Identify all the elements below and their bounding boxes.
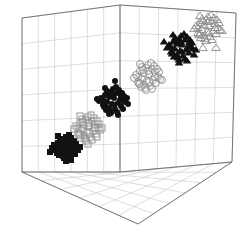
data-point-square-filled [68, 157, 74, 163]
data-point-circle-open [136, 81, 143, 88]
data-point-circle-open [154, 66, 161, 73]
data-point-circle-filled [124, 95, 130, 101]
data-point-circle-filled [120, 106, 126, 112]
data-point-square-open [85, 141, 91, 147]
data-point-circle-filled [101, 104, 107, 110]
data-point-circle-open [152, 74, 159, 81]
data-point-circle-filled [112, 78, 118, 84]
data-point-square-filled [64, 148, 70, 154]
data-point-square-open [94, 118, 100, 124]
data-point-circle-filled [110, 92, 116, 98]
data-point-circle-filled [117, 97, 123, 103]
data-point-square-open [94, 134, 100, 140]
data-point-square-filled [58, 139, 64, 145]
grid-line [22, 172, 138, 224]
data-point-square-open [88, 112, 94, 118]
data-point-circle-open [137, 61, 144, 68]
grid-line [87, 172, 200, 183]
data-point-square-filled [70, 144, 76, 150]
grid-line [119, 164, 214, 216]
data-point-square-filled [77, 144, 83, 150]
data-point-square-open [99, 125, 105, 131]
grid-line [138, 162, 232, 224]
data-point-circle-open [159, 77, 166, 84]
data-point-triangle-filled [169, 31, 178, 38]
data-point-circle-filled [102, 85, 108, 91]
data-point-square-filled [47, 149, 53, 155]
data-point-square-filled [66, 132, 72, 138]
data-point-circle-filled [113, 84, 119, 90]
data-point-square-open [71, 126, 77, 132]
data-point-square-open [80, 119, 86, 125]
data-point-circle-filled [119, 90, 125, 96]
scatter3d-plot [0, 0, 248, 236]
data-point-square-open [86, 130, 92, 136]
data-point-square-filled [72, 151, 78, 157]
data-point-square-filled [55, 133, 61, 139]
data-point-circle-filled [106, 111, 112, 117]
data-point-circle-filled [105, 91, 111, 97]
data-point-circle-open [148, 60, 155, 67]
data-point-triangle-open [199, 44, 208, 51]
data-point-triangle-open [212, 44, 221, 51]
data-point-square-open [77, 113, 83, 119]
data-point-circle-open [146, 79, 153, 86]
grid-line [99, 165, 194, 206]
data-point-circle-open [131, 75, 138, 82]
series-cluster-3 [94, 78, 131, 118]
data-point-circle-filled [115, 112, 121, 118]
data-point-circle-filled [111, 102, 117, 108]
data-point-circle-open [143, 87, 150, 94]
data-point-square-open [76, 132, 82, 138]
data-point-square-filled [71, 138, 77, 144]
plot-canvas [0, 0, 248, 236]
data-point-circle-filled [94, 96, 100, 102]
data-point-circle-filled [125, 101, 131, 107]
data-point-square-open [92, 125, 98, 131]
data-point-triangle-filled [160, 38, 169, 45]
